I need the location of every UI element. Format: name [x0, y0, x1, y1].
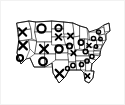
image-frame	[0, 0, 125, 105]
us-map-graphic	[1, 1, 125, 105]
mark-o-new-england-north	[97, 30, 101, 34]
state-boundaries	[17, 21, 110, 83]
